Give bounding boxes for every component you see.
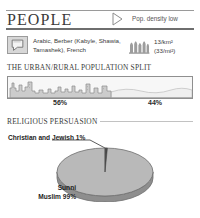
speech-bubble-glyph — [8, 37, 27, 53]
pie-label-major: Sunni Muslim 99% — [6, 184, 76, 201]
urban-rural-bar-chart — [7, 76, 193, 99]
urban-percent: 56% — [40, 99, 80, 106]
density-imperial: (33/mi²) — [154, 46, 200, 55]
speech-bubble-icon — [7, 36, 28, 54]
people-infographic-panel: PEOPLE Pop. density low Arabic, Berber (… — [0, 0, 200, 218]
religion-title: RELIGIOUS PERSUASION — [7, 117, 100, 126]
header-subtitle: Pop. density low — [132, 15, 178, 23]
triangle-right-icon — [112, 12, 123, 26]
population-buildings-icon — [128, 36, 150, 54]
density-values: 13/km² (33/mi²) — [154, 37, 200, 55]
pie-label-major-line2: Muslim 99% — [6, 193, 76, 202]
page-title: PEOPLE — [7, 11, 72, 28]
header-rule-bottom — [6, 28, 194, 30]
pie-label-major-line1: Sunni — [6, 184, 76, 193]
urban-rural-percent-labels: 56% 44% — [0, 99, 200, 111]
rural-percent: 44% — [135, 99, 175, 106]
density-metric: 13/km² — [154, 37, 200, 46]
urban-rural-graphic — [8, 77, 192, 98]
languages-text: Arabic, Berber (Kabyle, Shawia, Tamashek… — [33, 36, 125, 54]
urban-rural-title: THE URBAN/RURAL POPULATION SPLIT — [7, 63, 151, 72]
